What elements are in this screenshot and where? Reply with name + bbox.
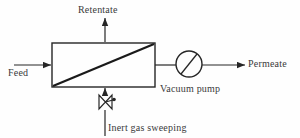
valve-left-triangle [99,95,106,109]
feed-label: Feed [8,68,28,78]
inert-gas-sweeping-label: Inert gas sweeping [108,123,187,133]
membrane-diagonal-line [53,44,154,86]
retentate-label: Retentate [78,5,118,15]
valve-handle-knob [112,98,116,102]
process-flow-diagram: Retentate Feed Permeate Vacuum pump Iner… [0,0,300,138]
vacuum-pump-diagonal [181,54,197,74]
permeate-label: Permeate [248,59,287,69]
diagram-canvas [0,0,300,138]
vacuum-pump-label: Vacuum pump [160,84,220,94]
